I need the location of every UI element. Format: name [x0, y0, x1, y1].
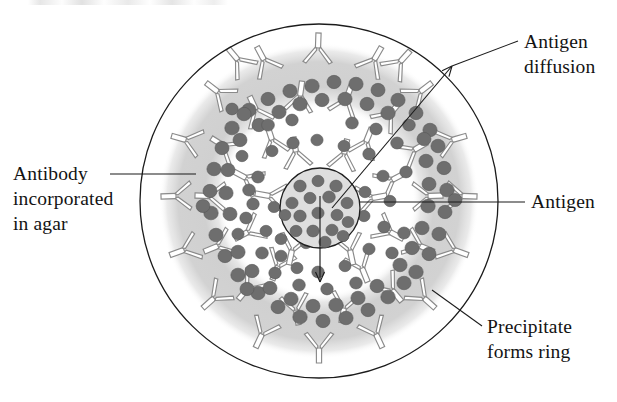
antigen-dot [207, 162, 221, 175]
antigen-dot [409, 265, 423, 279]
antigen-dot-in-well [294, 210, 306, 222]
antigen-dot [338, 92, 352, 105]
antigen-dot-in-well [342, 216, 354, 227]
antigen-dot [417, 132, 431, 145]
immunodiffusion-figure: AntigendiffusionAntibodyincorporatedin a… [0, 0, 617, 402]
antigen-dot [403, 119, 416, 131]
antigen-dot-in-well [341, 197, 353, 208]
antigen-dot [327, 75, 341, 88]
antigen-dot [339, 260, 351, 271]
antigen-dot-in-well [279, 209, 291, 220]
antigen-dot [237, 107, 251, 120]
antigen-dot-in-well [323, 191, 336, 203]
antigen-dot [377, 170, 389, 182]
antigen-dot [305, 79, 319, 93]
antigen-dot [391, 93, 405, 106]
antigen-dot [316, 314, 330, 327]
antigen-dot [291, 262, 303, 273]
antigen-dot [361, 303, 375, 316]
antigen-dot [266, 145, 278, 156]
antigen-dot [268, 201, 280, 212]
antigen-dot-in-well [319, 236, 331, 248]
antigen-dot [398, 227, 411, 239]
agar-plate [140, 24, 498, 378]
antigen-dot-in-well [331, 209, 343, 220]
antigen-dot [263, 281, 277, 294]
antigen-dot [448, 193, 462, 206]
antigen-dot [240, 212, 252, 224]
antigen-dot [351, 291, 365, 304]
antigen-dot [219, 186, 233, 199]
antigen-dot [247, 198, 259, 210]
antibody-stem [161, 193, 176, 199]
antigen-dot [215, 141, 229, 154]
label-precipitate-forms-ring-text: Precipitateforms ring [487, 316, 572, 362]
antigen-dot [438, 205, 452, 218]
antigen-dot [236, 150, 248, 161]
antigen-dot [422, 247, 436, 260]
antigen-dot [432, 227, 446, 240]
antigen-dot [421, 199, 435, 213]
antigen-dot [245, 264, 259, 277]
antigen-dot [321, 283, 333, 295]
antibody-stem [462, 193, 477, 199]
antigen-dot [315, 93, 329, 106]
antigen-dot [393, 258, 407, 271]
antigen-dot [381, 106, 395, 120]
antigen-dot [370, 279, 384, 292]
antigen-dot [306, 299, 320, 312]
antigen-dot [397, 276, 411, 289]
antigen-dot [293, 279, 306, 291]
antigen-dot [271, 300, 285, 313]
antigen-dot [386, 247, 398, 259]
antigen-dot [346, 117, 359, 129]
antigen-dot [363, 148, 375, 160]
antigen-dot [218, 249, 232, 262]
antigen-dot [293, 310, 307, 324]
antigen-dot [338, 140, 350, 151]
antigen-dot [339, 311, 353, 324]
antigen-dot [293, 97, 307, 111]
antigen-dot [391, 137, 404, 149]
label-antigen-text: Antigen [531, 191, 595, 212]
antigen-dot [243, 184, 256, 196]
antigen-dot [405, 241, 419, 254]
antigen-dot [350, 277, 363, 289]
antigen-dot [360, 97, 374, 110]
antigen-dot [203, 184, 217, 197]
antigen-dot [275, 233, 287, 244]
antigen-dot-in-well [312, 207, 324, 219]
antigen-dot [233, 133, 247, 146]
antigen-dot [311, 134, 323, 146]
antigen-dot [223, 207, 237, 220]
antigen-dot-in-well [337, 230, 349, 241]
antibody-stem [315, 33, 321, 48]
antigen-dot [262, 119, 275, 131]
antibody-stem [316, 348, 321, 363]
antigen-dot [252, 171, 265, 183]
antigen-dot-in-well [326, 224, 338, 236]
antigen-dot [275, 250, 287, 262]
label-antigen-diffusion-leader-line [452, 41, 518, 66]
antigen-dot-in-well [286, 197, 298, 209]
antigen-dot [371, 83, 385, 96]
antigen-dot [225, 121, 239, 135]
antigen-dot-in-well [294, 180, 306, 192]
antigen-dot [226, 103, 238, 115]
antigen-dot [419, 154, 433, 167]
antigen-dot [231, 268, 245, 282]
antigen-dot-in-well [312, 175, 324, 186]
antigen-dot [231, 245, 245, 258]
antigen-dot-in-well [304, 192, 316, 203]
radial-immunodiffusion-diagram: AntigendiffusionAntibodyincorporatedin a… [0, 0, 617, 402]
antigen-dot [363, 243, 375, 255]
antigen-dot [415, 221, 429, 234]
antigen-dot [196, 199, 210, 212]
antigen-dot [272, 105, 286, 118]
antigen-dot [256, 247, 269, 259]
antigen-dot [359, 186, 371, 197]
antigen-dot [349, 77, 363, 90]
antigen-dot [437, 161, 451, 174]
antigen-dot [381, 290, 395, 304]
antigen-dot [269, 267, 281, 279]
